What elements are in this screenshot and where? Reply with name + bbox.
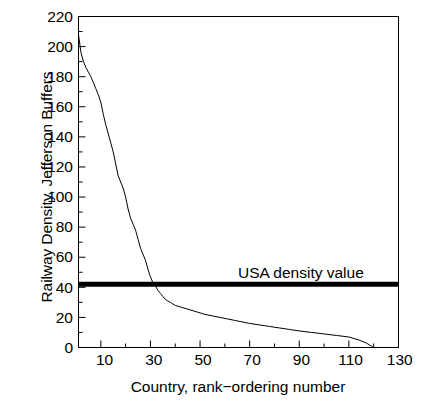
y-tick-marks: [79, 17, 86, 348]
plot-frame: [79, 17, 399, 348]
railway-density-curve: [79, 35, 374, 348]
x-tick-marks: [101, 341, 399, 348]
plot-area: [0, 0, 432, 411]
chart-root: Railway Density, Jefferson Buffers Count…: [0, 0, 432, 411]
